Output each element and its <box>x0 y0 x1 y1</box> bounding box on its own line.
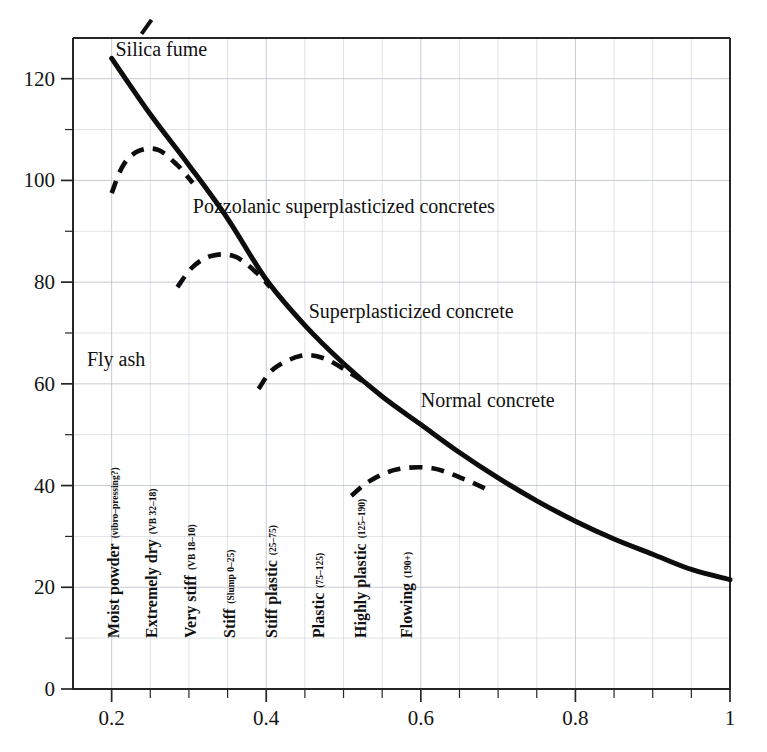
y-tick-label-60: 60 <box>34 372 55 396</box>
consistency-category-labels: Moist powder(vibro–pressing?)Extremely d… <box>105 467 417 638</box>
axis-ticks <box>61 79 730 702</box>
x-tick-label-0.4: 0.4 <box>253 706 280 730</box>
category-label-main-stiff-plastic: Stiff plastic(25–75) <box>263 525 281 638</box>
y-tick-label-0: 0 <box>45 677 56 701</box>
category-label-sub-moist-powder: (vibro–pressing?) <box>110 467 121 538</box>
category-label-sub-plastic: (75–125) <box>315 553 326 588</box>
category-label-main-highly-plastic: Highly plastic(125–190) <box>352 499 370 638</box>
y-tick-label-40: 40 <box>34 474 55 498</box>
x-tick-label-0.6: 0.6 <box>408 706 434 730</box>
category-label-sub-stiff-plastic: (25–75) <box>268 525 279 555</box>
category-label-stiff: Stiff(Slump 0–25) <box>221 550 238 638</box>
x-axis-tick-labels: 0.20.40.60.81 <box>99 706 736 730</box>
category-label-very-stiff: Very stiff(VB 18–10) <box>182 524 200 638</box>
category-label-highly-plastic: Highly plastic(125–190) <box>352 499 370 638</box>
annotation-pointer-silica-fume <box>142 20 152 34</box>
x-tick-label-0.2: 0.2 <box>99 706 125 730</box>
annotation-superplasticized: Superplasticized concrete <box>309 300 514 323</box>
category-label-main-stiff: Stiff(Slump 0–25) <box>221 550 238 638</box>
category-label-sub-highly-plastic: (125–190) <box>357 499 368 539</box>
category-label-plastic: Plastic(75–125) <box>310 553 327 638</box>
annotation-silica-fume: Silica fume <box>116 38 208 60</box>
category-label-main-extremely-dry: Extremely dry(VB 32–18) <box>143 489 161 638</box>
chart-figure: Silica fumePozzolanic superplasticized c… <box>0 0 767 752</box>
category-label-sub-stiff: (Slump 0–25) <box>226 550 237 604</box>
category-label-main-moist-powder: Moist powder(vibro–pressing?) <box>105 467 123 638</box>
annotation-pozzolanic: Pozzolanic superplasticized concretes <box>193 195 495 218</box>
category-label-sub-extremely-dry: (VB 32–18) <box>148 489 159 535</box>
category-label-sub-flowing: (190+) <box>403 552 414 578</box>
strength-vs-water-cement-ratio-chart: Silica fumePozzolanic superplasticized c… <box>0 0 767 752</box>
category-label-main-plastic: Plastic(75–125) <box>310 553 327 638</box>
y-axis-tick-labels: 020406080100120 <box>24 67 56 701</box>
category-label-extremely-dry: Extremely dry(VB 32–18) <box>143 489 161 638</box>
category-label-main-flowing: Flowing(190+) <box>398 552 416 638</box>
x-tick-label-1: 1 <box>725 706 736 730</box>
y-tick-label-120: 120 <box>24 67 56 91</box>
category-label-main-very-stiff: Very stiff(VB 18–10) <box>182 524 200 638</box>
category-label-stiff-plastic: Stiff plastic(25–75) <box>263 525 281 638</box>
annotation-fly-ash: Fly ash <box>87 348 145 371</box>
y-tick-label-100: 100 <box>24 168 56 192</box>
y-tick-label-20: 20 <box>34 575 55 599</box>
grid-major-vertical <box>112 38 730 689</box>
category-label-flowing: Flowing(190+) <box>398 552 416 638</box>
category-label-sub-very-stiff: (VB 18–10) <box>187 524 198 570</box>
x-tick-label-0.8: 0.8 <box>562 706 588 730</box>
y-tick-label-80: 80 <box>34 270 55 294</box>
annotation-normal-concrete: Normal concrete <box>421 389 555 411</box>
category-label-moist-powder: Moist powder(vibro–pressing?) <box>105 467 123 638</box>
